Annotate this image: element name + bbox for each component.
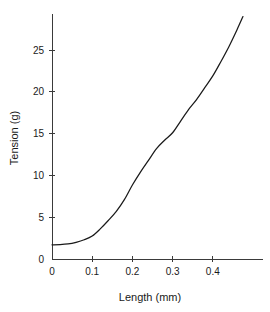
x-tick-label: 0.1 bbox=[85, 266, 99, 277]
x-axis-title: Length (mm) bbox=[119, 291, 181, 303]
data-curve bbox=[52, 17, 243, 245]
x-tick-label: 0.2 bbox=[125, 266, 139, 277]
x-tick-label: 0 bbox=[49, 266, 55, 277]
plot-area: 0510152025 00.10.20.30.4 Tension (g) Len… bbox=[0, 0, 270, 312]
y-tick-label: 5 bbox=[38, 212, 44, 223]
y-tick-label: 15 bbox=[33, 128, 45, 139]
y-tick-label: 25 bbox=[33, 45, 45, 56]
y-tick-label: 0 bbox=[38, 254, 44, 265]
y-axis-tick-labels: 0510152025 bbox=[33, 45, 45, 265]
chart-figure: 0510152025 00.10.20.30.4 Tension (g) Len… bbox=[0, 0, 270, 312]
y-axis-title: Tension (g) bbox=[8, 111, 20, 165]
y-tick-label: 20 bbox=[33, 86, 45, 97]
y-tick-label: 10 bbox=[33, 170, 45, 181]
x-tick-label: 0.4 bbox=[206, 266, 220, 277]
x-axis-tick-labels: 00.10.20.30.4 bbox=[49, 266, 220, 277]
x-tick-label: 0.3 bbox=[166, 266, 180, 277]
